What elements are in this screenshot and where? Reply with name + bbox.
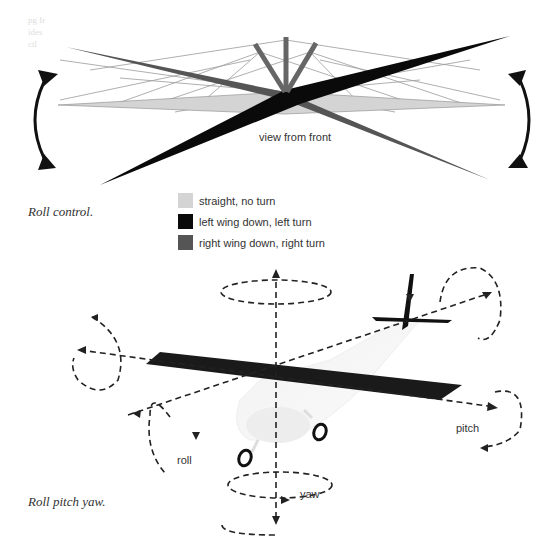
caption-roll-pitch-yaw: Roll pitch yaw.	[28, 494, 105, 510]
axis-label-roll: roll	[177, 454, 192, 466]
axis-label-pitch: pitch	[456, 422, 479, 434]
wheel-left	[237, 448, 254, 467]
roll-pitch-yaw-diagram	[0, 0, 548, 550]
axis-label-yaw: yaw	[300, 488, 320, 500]
